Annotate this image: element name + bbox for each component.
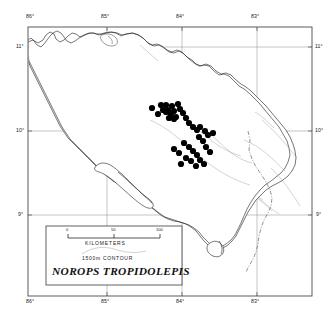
axis-label-lat-left-11: 11° (16, 44, 24, 49)
mainland-landmass (28, 32, 296, 249)
locality-dot (193, 163, 199, 169)
locality-dot (171, 146, 177, 152)
locality-dot (210, 130, 216, 136)
locality-dot (155, 111, 161, 117)
axis-label-lon-bottom-83: 83° (251, 299, 259, 304)
locality-dot (178, 161, 184, 167)
axis-label-lon-bottom-86: 86° (26, 299, 34, 304)
scale-label-50: 50 (111, 228, 116, 232)
axis-label-lon-top-85: 85° (101, 14, 109, 19)
axis-label-lat-right-9: 9° (316, 212, 321, 217)
axis-label-lon-top-86: 86° (26, 14, 34, 19)
axis-label-lon-bottom-85: 85° (101, 299, 109, 304)
coastline-outline (28, 32, 296, 249)
axis-label-lat-left-10: 10° (16, 128, 24, 133)
locality-dot (197, 124, 203, 130)
scale-units-label: KILOMETERS (85, 241, 126, 246)
locality-dot (171, 116, 177, 122)
locality-dot (201, 161, 207, 167)
axis-label-lon-bottom-84: 84° (176, 299, 184, 304)
locality-dot (160, 107, 166, 113)
axis-label-lon-top-84: 84° (176, 14, 184, 19)
locality-dot (176, 150, 182, 156)
species-name-label: NOROPS TROPIDOLEPIS (52, 266, 190, 277)
axis-label-lat-right-10: 10° (315, 128, 323, 133)
axis-label-lon-top-83: 83° (251, 14, 259, 19)
locality-dot (203, 144, 209, 150)
axis-label-lat-right-11: 11° (315, 44, 323, 49)
locality-dot (188, 158, 194, 164)
locality-dot (207, 149, 213, 155)
contour-legend-label: 1500m CONTOUR (82, 256, 133, 261)
axis-label-lat-left-9: 9° (18, 212, 23, 217)
scale-label-0: 0 (66, 228, 68, 232)
distribution-map-figure: 86° 85° 84° 83° 86° 85° 84° 83° 11° 10° … (0, 0, 333, 323)
scale-label-100: 100 (156, 228, 163, 232)
locality-dot (149, 105, 155, 111)
locality-dot (200, 138, 206, 144)
locality-dot (181, 140, 187, 146)
